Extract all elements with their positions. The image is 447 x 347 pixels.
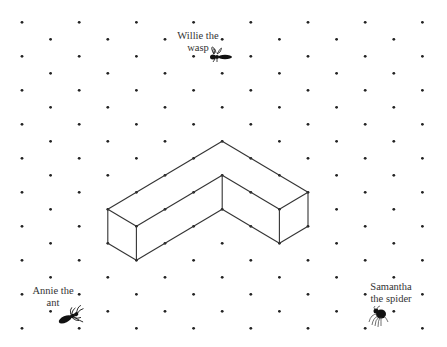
grid-dot bbox=[106, 72, 109, 75]
grid-dot bbox=[307, 293, 310, 296]
grid-dot bbox=[335, 72, 338, 75]
grid-dot bbox=[164, 38, 167, 41]
grid-dot bbox=[392, 310, 395, 313]
grid-dot bbox=[421, 225, 424, 228]
grid-dot bbox=[421, 293, 424, 296]
grid-dot bbox=[106, 106, 109, 109]
prism-edge bbox=[222, 141, 308, 192]
grid-dot bbox=[135, 157, 138, 160]
label-annie-the-ant: Annie the ant bbox=[28, 285, 78, 309]
grid-dot bbox=[135, 89, 138, 92]
grid-dot bbox=[364, 157, 367, 160]
grid-dot bbox=[421, 21, 424, 24]
prism-edge bbox=[222, 175, 279, 209]
grid-dot bbox=[21, 259, 24, 262]
grid-dot bbox=[421, 89, 424, 92]
grid-dot bbox=[221, 106, 224, 109]
grid-dot bbox=[307, 123, 310, 126]
grid-dot bbox=[364, 123, 367, 126]
grid-dot bbox=[78, 327, 81, 330]
prism-edge bbox=[222, 209, 279, 243]
grid-dot bbox=[307, 21, 310, 24]
label-line: Annie the bbox=[28, 285, 78, 297]
grid-dot bbox=[49, 72, 52, 75]
spider-icon bbox=[369, 306, 388, 327]
grid-dot bbox=[307, 327, 310, 330]
grid-dot bbox=[78, 157, 81, 160]
grid-dot bbox=[106, 174, 109, 177]
grid-dot bbox=[307, 55, 310, 58]
grid-dot bbox=[135, 21, 138, 24]
grid-dot bbox=[249, 89, 252, 92]
grid-dot bbox=[164, 140, 167, 143]
grid-dot bbox=[335, 208, 338, 211]
prism-edge bbox=[136, 175, 222, 226]
grid-dot bbox=[78, 259, 81, 262]
grid-dot bbox=[249, 293, 252, 296]
grid-dot bbox=[364, 21, 367, 24]
label-line: ant bbox=[28, 297, 78, 309]
grid-dot bbox=[392, 208, 395, 211]
grid-dot bbox=[335, 242, 338, 245]
grid-dot bbox=[106, 276, 109, 279]
grid-dot bbox=[392, 174, 395, 177]
label-line: Willie the bbox=[174, 30, 222, 42]
grid-dot bbox=[364, 191, 367, 194]
grid-dot bbox=[135, 293, 138, 296]
grid-dot bbox=[21, 21, 24, 24]
grid-dot bbox=[78, 55, 81, 58]
grid-dot bbox=[49, 208, 52, 211]
grid-dot bbox=[192, 123, 195, 126]
grid-dot bbox=[49, 106, 52, 109]
grid-dot bbox=[21, 89, 24, 92]
grid-dot bbox=[278, 276, 281, 279]
prism-edge bbox=[108, 141, 222, 209]
grid-dot bbox=[278, 310, 281, 313]
l-shaped-prism bbox=[108, 141, 308, 260]
grid-dot bbox=[164, 276, 167, 279]
grid-dot bbox=[278, 38, 281, 41]
grid-dot bbox=[335, 106, 338, 109]
prism-edge bbox=[279, 192, 308, 209]
grid-dot bbox=[392, 242, 395, 245]
grid-dot bbox=[192, 259, 195, 262]
grid-dot bbox=[392, 140, 395, 143]
grid-dot bbox=[335, 276, 338, 279]
prism-edge bbox=[108, 209, 137, 226]
grid-dot bbox=[21, 191, 24, 194]
grid-dot bbox=[364, 259, 367, 262]
grid-dot bbox=[49, 174, 52, 177]
grid-dot bbox=[49, 38, 52, 41]
grid-dot bbox=[78, 191, 81, 194]
label-willie-the-wasp: Willie the wasp bbox=[174, 30, 222, 54]
grid-dot bbox=[221, 72, 224, 75]
grid-dot bbox=[164, 106, 167, 109]
grid-dot bbox=[249, 55, 252, 58]
grid-dot bbox=[78, 123, 81, 126]
grid-dot bbox=[392, 106, 395, 109]
grid-dot bbox=[278, 140, 281, 143]
grid-dot bbox=[192, 21, 195, 24]
grid-dot bbox=[364, 293, 367, 296]
grid-dot bbox=[21, 157, 24, 160]
grid-dot bbox=[21, 293, 24, 296]
grid-dot bbox=[192, 89, 195, 92]
grid-dot bbox=[21, 327, 24, 330]
label-line: wasp bbox=[174, 42, 222, 54]
grid-dot bbox=[221, 310, 224, 313]
grid-dot bbox=[364, 327, 367, 330]
grid-dot bbox=[249, 327, 252, 330]
grid-dot bbox=[192, 293, 195, 296]
grid-dot bbox=[21, 123, 24, 126]
prism-edge bbox=[108, 243, 137, 260]
grid-dot bbox=[221, 242, 224, 245]
grid-dot bbox=[307, 157, 310, 160]
grid-dot bbox=[21, 225, 24, 228]
grid-dot bbox=[364, 55, 367, 58]
grid-dot bbox=[78, 293, 81, 296]
grid-dot bbox=[135, 327, 138, 330]
grid-dot bbox=[249, 123, 252, 126]
grid-dot bbox=[421, 157, 424, 160]
grid-dot bbox=[221, 276, 224, 279]
grid-dot bbox=[78, 21, 81, 24]
